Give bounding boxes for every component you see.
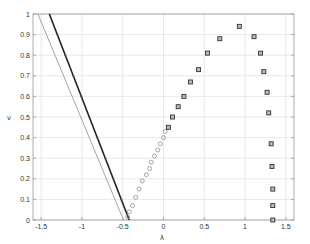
- square-marker: [182, 94, 186, 98]
- square-marker: [269, 142, 273, 146]
- square-marker: [267, 111, 271, 115]
- line-marker: [56, 34, 58, 36]
- circle-marker: [153, 154, 157, 158]
- y-tick-label: 0.6: [20, 93, 30, 100]
- square-marker: [218, 37, 222, 41]
- x-tick-label: 0: [162, 223, 166, 230]
- y-tick-label: 0.4: [20, 134, 30, 141]
- line-marker: [80, 95, 82, 97]
- square-marker: [188, 80, 192, 84]
- grid-lines: [33, 14, 294, 220]
- y-tick-label: 0.7: [20, 72, 30, 79]
- x-tick-label: 0.5: [199, 223, 209, 230]
- x-axis-label: λ: [160, 234, 164, 242]
- line-marker: [120, 198, 122, 200]
- square-marker: [259, 51, 263, 55]
- y-tick-label: 0.2: [20, 175, 30, 182]
- square-marker: [271, 218, 275, 222]
- y-tick-label: 1: [26, 11, 30, 18]
- circle-marker: [127, 210, 131, 214]
- x-tick-label: -0.5: [117, 223, 129, 230]
- x-tick-label: 1: [243, 223, 247, 230]
- circle-marker: [140, 179, 144, 183]
- square-marker: [176, 105, 180, 109]
- square-marker: [271, 204, 275, 208]
- y-tick-label: 0: [26, 217, 30, 224]
- line-marker: [88, 116, 90, 118]
- circle-marker: [148, 167, 152, 171]
- data-series: [38, 14, 275, 222]
- circle-marker: [158, 142, 162, 146]
- line-marker: [64, 54, 66, 56]
- y-axis-label: ν: [7, 114, 11, 122]
- chart: -1.5-1-0.500.511.500.10.20.30.40.50.60.7…: [0, 0, 310, 244]
- square-marker: [166, 125, 170, 129]
- circle-marker: [156, 148, 160, 152]
- circle-marker: [144, 173, 148, 177]
- square-marker: [265, 90, 269, 94]
- line-marker: [112, 178, 114, 180]
- square-marker: [252, 35, 256, 39]
- x-tick-label: -1: [79, 223, 85, 230]
- line-marker: [96, 137, 98, 139]
- square-marker: [262, 70, 266, 74]
- square-marker: [270, 164, 274, 168]
- line-marker: [72, 75, 74, 77]
- y-tick-label: 0.9: [20, 31, 30, 38]
- x-tick-label: 1.5: [281, 223, 291, 230]
- square-marker: [206, 51, 210, 55]
- line-marker: [104, 157, 106, 159]
- square-marker: [271, 187, 275, 191]
- square-marker: [197, 68, 201, 72]
- circle-marker: [131, 204, 135, 208]
- square-marker: [170, 115, 174, 119]
- y-tick-label: 0.3: [20, 155, 30, 162]
- circle-marker: [149, 160, 153, 164]
- x-tick-label: -1.5: [35, 223, 47, 230]
- circle-marker: [134, 195, 138, 199]
- circle-marker: [137, 187, 141, 191]
- square-marker: [237, 24, 241, 28]
- y-tick-label: 0.8: [20, 52, 30, 59]
- y-tick-label: 0.1: [20, 196, 30, 203]
- y-tick-label: 0.5: [20, 114, 30, 121]
